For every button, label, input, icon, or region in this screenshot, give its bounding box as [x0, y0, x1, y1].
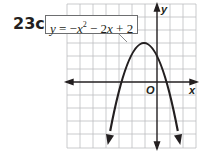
eq-equals: = − — [56, 21, 77, 36]
curve-right-arrow-icon — [174, 134, 182, 145]
y-axis-label: y — [161, 3, 167, 15]
eq-tail: + 2 — [113, 21, 133, 36]
curve-left-arrow-icon — [106, 134, 114, 145]
y-axis-up-arrow-icon — [155, 4, 160, 11]
x-axis-label: x — [189, 84, 195, 96]
equation-label: y = −x2 − 2x + 2 — [45, 15, 138, 34]
origin-label: O — [146, 84, 155, 96]
eq-middle: − 2 — [87, 21, 107, 36]
